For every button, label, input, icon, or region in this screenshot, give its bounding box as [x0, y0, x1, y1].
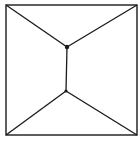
outer-square: [6, 5, 137, 135]
edge-top-right-to-inner-upper: [67, 5, 137, 47]
edge-inner-lower-to-bottom-left: [6, 91, 66, 135]
node-inner-upper: [65, 45, 69, 49]
graph-diagram: [0, 0, 140, 149]
node-inner-lower: [64, 89, 67, 92]
edge-inner-upper-to-inner-lower: [66, 47, 67, 91]
edge-inner-lower-to-bottom-right: [66, 91, 137, 135]
diagram-canvas: [0, 0, 140, 149]
edge-top-left-to-inner-upper: [6, 5, 67, 47]
edges-group: [6, 5, 137, 135]
